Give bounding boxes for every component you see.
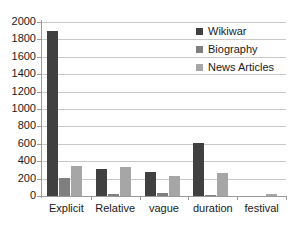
x-axis-tick-mark xyxy=(286,196,287,200)
y-axis-tick-mark xyxy=(37,126,41,127)
y-axis-tick-label: 1600 xyxy=(2,51,36,62)
bar-relative-biography xyxy=(108,194,119,196)
y-axis-tick-label: 1200 xyxy=(2,86,36,97)
bar-group xyxy=(96,22,131,196)
x-axis-tick-mark xyxy=(91,196,92,200)
legend-label: Wikiwar xyxy=(208,26,247,37)
legend-swatch-icon xyxy=(196,46,203,53)
x-axis-label-explicit: Explicit xyxy=(42,203,91,214)
bar-vague-wikiwar xyxy=(145,172,156,196)
bar-vague-news-articles xyxy=(169,176,180,196)
y-axis-tick-mark xyxy=(37,179,41,180)
y-axis-tick-label: 800 xyxy=(2,120,36,131)
bar-relative-news-articles xyxy=(120,167,131,196)
bar-group xyxy=(145,22,180,196)
y-axis-tick-mark xyxy=(37,22,41,23)
bar-explicit-biography xyxy=(59,178,70,196)
x-axis-label-duration: duration xyxy=(188,203,237,214)
bar-chart: 2000180016001400120010008006004002000 Ex… xyxy=(0,0,306,244)
x-axis-label-relative: Relative xyxy=(91,203,140,214)
y-axis-tick-label: 400 xyxy=(2,155,36,166)
x-axis-tick-mark xyxy=(188,196,189,200)
bar-explicit-wikiwar xyxy=(47,31,58,196)
legend-swatch-icon xyxy=(196,28,203,35)
y-axis-tick-mark xyxy=(37,74,41,75)
bar-duration-wikiwar xyxy=(193,143,204,196)
x-axis-line xyxy=(41,196,287,197)
y-axis-tick-mark xyxy=(37,161,41,162)
x-axis-tick-mark xyxy=(140,196,141,200)
legend-swatch-icon xyxy=(196,64,203,71)
chart-legend: WikiwarBiographyNews Articles xyxy=(196,22,286,76)
y-axis-tick-mark xyxy=(37,92,41,93)
bar-duration-biography xyxy=(205,195,216,196)
legend-label: Biography xyxy=(208,44,258,55)
y-axis-tick-mark xyxy=(37,109,41,110)
x-axis-label-vague: vague xyxy=(140,203,189,214)
bar-group xyxy=(47,22,82,196)
x-axis-tick-mark xyxy=(237,196,238,200)
y-axis-tick-label: 2000 xyxy=(2,16,36,27)
legend-label: News Articles xyxy=(208,62,274,73)
bar-vague-biography xyxy=(157,193,168,196)
bar-relative-wikiwar xyxy=(96,169,107,196)
y-axis-tick-mark xyxy=(37,39,41,40)
legend-item-news-articles[interactable]: News Articles xyxy=(196,58,286,76)
y-axis-tick-labels: 2000180016001400120010008006004002000 xyxy=(0,0,36,244)
y-axis-tick-mark xyxy=(37,196,41,197)
bar-explicit-news-articles xyxy=(71,166,82,196)
y-axis-tick-label: 1400 xyxy=(2,68,36,79)
x-axis-label-festival: festival xyxy=(237,203,286,214)
y-axis-tick-label: 200 xyxy=(2,173,36,184)
y-axis-tick-label: 1000 xyxy=(2,103,36,114)
bar-duration-news-articles xyxy=(217,173,228,196)
y-axis-tick-mark xyxy=(37,144,41,145)
bar-festival-news-articles xyxy=(266,194,277,196)
y-axis-tick-label: 600 xyxy=(2,138,36,149)
y-axis-tick-label: 0 xyxy=(2,190,36,201)
legend-item-wikiwar[interactable]: Wikiwar xyxy=(196,22,286,40)
y-axis-tick-label: 1800 xyxy=(2,33,36,44)
legend-item-biography[interactable]: Biography xyxy=(196,40,286,58)
y-axis-tick-mark xyxy=(37,57,41,58)
